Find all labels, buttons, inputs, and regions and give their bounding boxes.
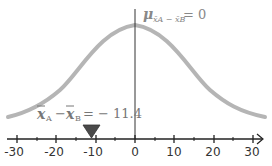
tick-label: 10 bbox=[166, 145, 181, 159]
tick-label: -10 bbox=[83, 145, 103, 159]
svg-text:x: x bbox=[36, 106, 46, 122]
svg-text:B: B bbox=[75, 114, 81, 123]
tick-label: 30 bbox=[244, 145, 259, 159]
svg-text:A: A bbox=[45, 114, 52, 123]
svg-text:x: x bbox=[65, 106, 75, 122]
observed-marker-triangle-icon bbox=[83, 125, 100, 138]
svg-text:x̄A − x̄B: x̄A − x̄B bbox=[153, 15, 186, 24]
svg-text:= 0: = 0 bbox=[183, 7, 206, 22]
observed-annotation: x A − x B = − 11.4 bbox=[36, 106, 142, 123]
svg-text:= − 11.4: = − 11.4 bbox=[83, 106, 142, 121]
chart: -30 -20 -10 0 10 20 30 μ x̄A − x̄B = 0 x… bbox=[0, 0, 272, 166]
tick-labels: -30 -20 -10 0 10 20 30 bbox=[4, 145, 259, 159]
mean-annotation: μ x̄A − x̄B = 0 bbox=[143, 6, 206, 24]
normal-curve bbox=[8, 25, 265, 117]
tick-label: -30 bbox=[4, 145, 24, 159]
tick-label: 0 bbox=[131, 145, 139, 159]
tick-label: 20 bbox=[205, 145, 220, 159]
tick-label: -20 bbox=[44, 145, 64, 159]
svg-text:μ: μ bbox=[143, 6, 153, 22]
svg-text:−: − bbox=[55, 106, 66, 121]
